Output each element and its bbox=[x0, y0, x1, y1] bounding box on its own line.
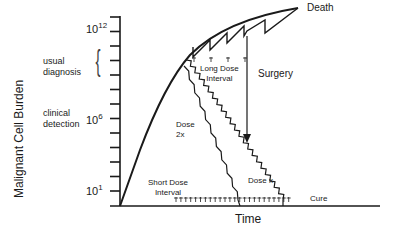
surgery-label: Surgery bbox=[258, 69, 293, 79]
short-interval-dose-markers bbox=[174, 197, 291, 202]
dose-marker bbox=[248, 197, 252, 202]
dose-marker bbox=[226, 57, 230, 62]
dose-marker bbox=[199, 197, 203, 202]
dose-marker bbox=[189, 197, 193, 202]
dose-marker bbox=[203, 197, 207, 202]
dose-marker bbox=[213, 197, 217, 202]
usual-diagnosis-label: usual diagnosis bbox=[43, 56, 81, 78]
dose-marker bbox=[272, 197, 276, 202]
dose-marker bbox=[228, 197, 232, 202]
dose-marker bbox=[243, 197, 247, 202]
dose-marker bbox=[277, 197, 281, 202]
dose-marker bbox=[287, 197, 291, 202]
cure-label: Cure bbox=[310, 195, 327, 203]
dose-marker bbox=[252, 197, 256, 202]
death-label: Death bbox=[307, 3, 334, 13]
x-axis-label: Time bbox=[235, 213, 261, 225]
dose-marker bbox=[209, 57, 213, 62]
dose-marker bbox=[208, 197, 212, 202]
y-tick-label-10-1: 101 bbox=[86, 186, 103, 197]
y-tick-label-10-6: 106 bbox=[86, 115, 103, 126]
dose-x-label: Dose x bbox=[248, 177, 273, 185]
y-tick-label-10-12: 1012 bbox=[86, 24, 107, 35]
long-dose-interval-label: Long Dose Interval bbox=[200, 64, 239, 84]
dose-marker bbox=[267, 197, 271, 202]
short-dose-interval-label: Short Dose Interval bbox=[148, 178, 188, 198]
y-axis-ticks bbox=[110, 17, 120, 191]
dose-marker bbox=[194, 197, 198, 202]
dose-marker bbox=[262, 197, 266, 202]
long-interval-dose-markers bbox=[192, 57, 247, 62]
long-dose-interval-sawtooth bbox=[193, 8, 298, 57]
clinical-detection-label: clinical detection bbox=[43, 108, 80, 130]
dose-marker bbox=[218, 197, 222, 202]
dose-marker bbox=[223, 197, 227, 202]
usual-diagnosis-brace: { bbox=[96, 46, 101, 76]
dose-marker bbox=[192, 57, 196, 62]
dose-2x-label: Dose 2x bbox=[176, 120, 195, 140]
y-axis-label: Malignant Cell Burden bbox=[12, 80, 26, 198]
dose-marker bbox=[233, 197, 237, 202]
dose-marker bbox=[257, 197, 261, 202]
